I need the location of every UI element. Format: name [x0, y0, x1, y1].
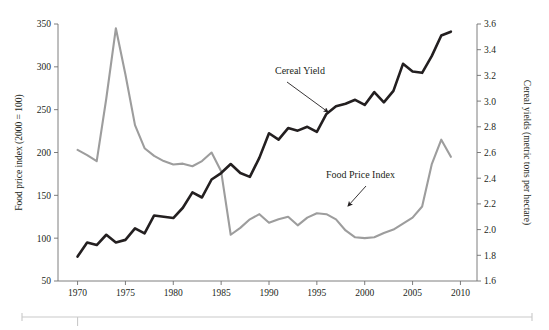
right-axis-tick-label: 3.2 [484, 71, 496, 81]
right-axis-title: Cereal yields (metric tons per hectare) [521, 80, 532, 225]
right-axis-tick-label: 2.4 [484, 174, 496, 184]
chart-canvas: 50100150200250300350Food price index (20… [0, 0, 549, 330]
left-axis-tick-label: 250 [37, 105, 52, 115]
food-price-index-annotation-arrow [348, 186, 366, 206]
left-axis-tick-label: 300 [37, 62, 52, 72]
annotations-group: Cereal YieldFood Price Index [275, 65, 395, 206]
food-price-index-annotation-label: Food Price Index [326, 169, 395, 180]
chart-figure: 50100150200250300350Food price index (20… [0, 0, 549, 330]
series-group [78, 28, 451, 256]
right-axis-tick-label: 2.6 [484, 148, 496, 158]
cereal-yield-annotation-label: Cereal Yield [275, 65, 325, 76]
x-axis-tick-label: 1980 [164, 288, 183, 298]
left-axis-tick-label: 150 [37, 191, 52, 201]
right-axis: 1.61.82.02.22.42.62.83.03.23.43.6Cereal … [477, 19, 532, 286]
right-axis-tick-label: 3.0 [484, 97, 496, 107]
x-axis-tick-label: 1995 [307, 288, 326, 298]
left-axis-tick-label: 200 [37, 148, 52, 158]
series-line-cereal-yield [78, 32, 451, 257]
cereal-yield-annotation-arrow [287, 82, 328, 112]
bottom-ruler [22, 313, 532, 326]
x-axis-tick-label: 1975 [116, 288, 135, 298]
right-axis-tick-label: 3.4 [484, 45, 496, 55]
right-axis-tick-label: 3.6 [484, 19, 496, 29]
series-line-food-price-index [78, 28, 451, 238]
x-axis: 197019751980198519901995200020052010 [58, 281, 477, 298]
left-axis-tick-label: 50 [42, 276, 52, 286]
left-axis: 50100150200250300350Food price index (20… [14, 19, 58, 286]
x-axis-tick-label: 1985 [212, 288, 231, 298]
x-axis-tick-label: 1990 [260, 288, 279, 298]
x-axis-tick-label: 2005 [403, 288, 422, 298]
x-axis-tick-label: 1970 [68, 288, 87, 298]
right-axis-tick-label: 1.8 [484, 251, 496, 261]
x-axis-tick-label: 2000 [355, 288, 374, 298]
x-axis-tick-label: 2010 [451, 288, 470, 298]
left-axis-title: Food price index (2000 = 100) [14, 94, 25, 210]
right-axis-tick-label: 2.0 [484, 225, 496, 235]
left-axis-tick-label: 100 [37, 234, 52, 244]
right-axis-tick-label: 2.8 [484, 122, 496, 132]
right-axis-tick-label: 2.2 [484, 199, 496, 209]
right-axis-tick-label: 1.6 [484, 276, 496, 286]
left-axis-tick-label: 350 [37, 19, 52, 29]
